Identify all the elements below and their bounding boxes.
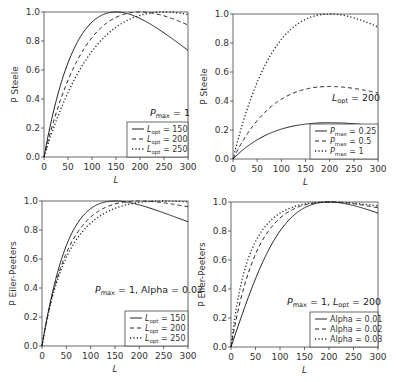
x-tick-label: 150 bbox=[297, 164, 314, 174]
x-tick-label: 300 bbox=[369, 352, 386, 362]
legend: Alpha = 0.01Alpha = 0.02Alpha = 0.03 bbox=[310, 312, 382, 347]
x-tick-label: 150 bbox=[106, 351, 123, 361]
x-tick-label: 250 bbox=[155, 162, 172, 172]
x-tick-label: 250 bbox=[345, 164, 362, 174]
y-tick-label: 0.4 bbox=[24, 283, 39, 293]
x-tick-label: 250 bbox=[155, 351, 172, 361]
y-tick-label: 1.0 bbox=[24, 196, 39, 206]
y-tick-label: 0.4 bbox=[26, 94, 41, 104]
panel-annotation: Pmax = 1, Alpha = 0.02 bbox=[95, 284, 203, 297]
legend-entry: Alpha = 0.01 bbox=[330, 315, 382, 324]
x-tick-label: 100 bbox=[273, 164, 290, 174]
x-tick-label: 0 bbox=[39, 351, 45, 361]
x-tick-label: 50 bbox=[251, 164, 263, 174]
y-tick-label: 0.0 bbox=[215, 154, 230, 164]
legend: Lopt = 150Lopt = 200Lopt = 250 bbox=[127, 122, 188, 157]
x-tick-label: 100 bbox=[82, 351, 99, 361]
y-tick-label: 0.6 bbox=[213, 255, 228, 265]
figure: 0.00.20.40.60.81.0050100150200250300LP S… bbox=[0, 0, 396, 382]
y-tick-label: 0.8 bbox=[215, 38, 230, 48]
y-tick-label: 0.2 bbox=[26, 123, 40, 133]
x-tick-label: 50 bbox=[250, 352, 262, 362]
y-tick-label: 0.8 bbox=[213, 226, 228, 236]
y-tick-label: 0.6 bbox=[26, 65, 41, 75]
x-tick-label: 100 bbox=[271, 352, 288, 362]
y-tick-label: 0.2 bbox=[213, 313, 227, 323]
x-tick-label: 100 bbox=[83, 162, 100, 172]
y-tick-label: 0.2 bbox=[24, 312, 38, 322]
legend-entry: Alpha = 0.03 bbox=[330, 335, 382, 344]
y-tick-label: 0.8 bbox=[26, 36, 41, 46]
x-tick-label: 300 bbox=[369, 164, 386, 174]
legend: Pmax = 0.25Pmax = 0.5Pmax = 1 bbox=[310, 124, 378, 159]
y-tick-label: 0.6 bbox=[215, 67, 230, 77]
legend-entry: Alpha = 0.02 bbox=[330, 325, 382, 334]
y-tick-label: 0.6 bbox=[24, 254, 39, 264]
x-tick-label: 250 bbox=[345, 352, 362, 362]
y-tick-label: 0.4 bbox=[215, 96, 230, 106]
panel-annotation: Pmax = 1, Lopt = 200 bbox=[287, 296, 381, 309]
x-axis-label: L bbox=[113, 175, 118, 185]
x-tick-label: 50 bbox=[62, 162, 74, 172]
x-tick-label: 200 bbox=[321, 164, 338, 174]
legend: Lopt = 150Lopt = 200Lopt = 250 bbox=[125, 311, 188, 346]
y-axis-label: P Steele bbox=[10, 66, 20, 103]
x-tick-label: 200 bbox=[320, 352, 337, 362]
y-axis-label: P Steele bbox=[199, 68, 209, 105]
x-tick-label: 50 bbox=[61, 351, 73, 361]
y-tick-label: 0.4 bbox=[213, 284, 228, 294]
x-tick-label: 0 bbox=[41, 162, 47, 172]
y-tick-label: 0.8 bbox=[24, 225, 39, 235]
panel-bottom-right: 0.00.20.40.60.81.0050100150200250300LP E… bbox=[197, 197, 387, 375]
panel-bottom-left: 0.00.20.40.60.81.0050100150200250300LP E… bbox=[8, 196, 203, 374]
x-axis-label: L bbox=[302, 365, 307, 375]
x-tick-label: 0 bbox=[230, 164, 236, 174]
x-tick-label: 200 bbox=[131, 162, 148, 172]
y-tick-label: 1.0 bbox=[215, 9, 230, 19]
x-tick-label: 150 bbox=[107, 162, 124, 172]
panel-annotation: Lopt = 200 bbox=[332, 92, 380, 105]
y-tick-label: 0.0 bbox=[26, 152, 41, 162]
y-tick-label: 0.2 bbox=[215, 125, 229, 135]
y-axis-label: P Eiler-Peeters bbox=[8, 241, 18, 306]
x-axis-label: L bbox=[112, 364, 117, 374]
y-tick-label: 1.0 bbox=[213, 197, 228, 207]
x-tick-label: 300 bbox=[179, 351, 196, 361]
y-tick-label: 0.0 bbox=[24, 341, 39, 351]
x-axis-label: L bbox=[303, 177, 308, 187]
x-tick-label: 150 bbox=[296, 352, 313, 362]
panel-top-right: 0.00.20.40.60.81.0050100150200250300LP S… bbox=[199, 9, 387, 187]
y-axis-label: P Eiler-Peeters bbox=[197, 242, 207, 307]
panel-annotation: Pmax = 1 bbox=[150, 107, 190, 120]
x-tick-label: 300 bbox=[179, 162, 196, 172]
panel-top-left: 0.00.20.40.60.81.0050100150200250300LP S… bbox=[10, 7, 197, 185]
y-tick-label: 1.0 bbox=[26, 7, 41, 17]
x-tick-label: 200 bbox=[131, 351, 148, 361]
x-tick-label: 0 bbox=[228, 352, 234, 362]
y-tick-label: 0.0 bbox=[213, 342, 228, 352]
